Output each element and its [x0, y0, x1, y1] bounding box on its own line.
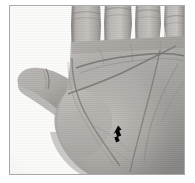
arrow-marker[interactable] [109, 125, 123, 145]
screenshot-root [0, 0, 195, 183]
photo-frame [9, 5, 185, 175]
photo-canvas [10, 6, 184, 174]
palm-photograph [10, 6, 184, 174]
